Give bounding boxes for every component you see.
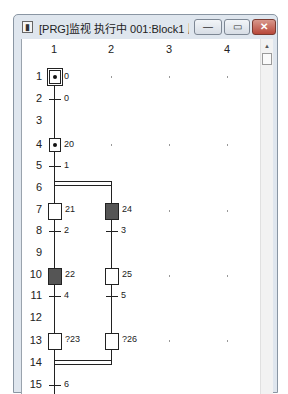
step-26[interactable]: [105, 333, 119, 350]
row-number: 2: [26, 92, 42, 104]
step-22[interactable]: [48, 268, 62, 285]
row-number: 7: [26, 203, 42, 215]
title-bar[interactable]: ▮ [PRG]监视 执行中 001:Block1 顺序... — ▭ ✕: [14, 15, 277, 39]
transition-2[interactable]: [49, 231, 61, 232]
step-20[interactable]: [49, 138, 61, 152]
close-icon: ✕: [253, 20, 275, 34]
parallel-merge-line-top: [54, 360, 112, 361]
transition-label: 4: [64, 290, 69, 300]
sfc-diagram-area[interactable]: 1 2 3 4 1 2 3 4 5 6 7 8 9 10 11 12 13 14…: [21, 39, 272, 394]
window-title: [PRG]监视 执行中 001:Block1 顺序...: [39, 20, 189, 36]
transition-label: 1: [64, 160, 69, 170]
row-number: 13: [26, 334, 42, 346]
row-number: 9: [26, 246, 42, 258]
maximize-icon: ▭: [225, 20, 249, 34]
parallel-branch-line-top: [54, 181, 112, 182]
step-25[interactable]: [105, 268, 119, 285]
step-23[interactable]: [48, 333, 62, 350]
row-number: 3: [26, 114, 42, 126]
row-number: 4: [26, 138, 42, 150]
step-label: ?23: [65, 334, 80, 344]
transition-1[interactable]: [49, 166, 61, 167]
step-label: 0: [64, 71, 69, 81]
transition-label: 3: [121, 225, 126, 235]
row-number: 14: [26, 356, 42, 368]
row-number: 8: [26, 224, 42, 236]
row-number: 5: [26, 159, 42, 171]
grid-dot: [227, 210, 228, 212]
minimize-icon: —: [195, 20, 221, 34]
step-label: 22: [65, 269, 75, 279]
scroll-up-arrow-icon[interactable]: ▲: [261, 41, 273, 51]
grid-dot: [227, 340, 228, 342]
row-number: 12: [26, 311, 42, 323]
vertical-scrollbar[interactable]: ▲: [260, 39, 273, 394]
scroll-thumb[interactable]: [262, 53, 272, 65]
step-label: 25: [122, 269, 132, 279]
parallel-branch-line-bottom: [54, 185, 112, 186]
column-header-2: 2: [104, 43, 118, 55]
transition-label: 2: [64, 225, 69, 235]
row-number: 1: [26, 70, 42, 82]
grid-dot: [111, 76, 112, 78]
maximize-button[interactable]: ▭: [224, 19, 250, 35]
column-header-3: 3: [162, 43, 176, 55]
transition-6[interactable]: [49, 385, 61, 386]
row-number: 11: [26, 289, 42, 301]
minimize-button[interactable]: —: [194, 19, 222, 35]
step-21[interactable]: [48, 203, 62, 220]
transition-label: 0: [64, 93, 69, 103]
grid-dot: [227, 144, 228, 146]
step-label: 21: [65, 204, 75, 214]
step-24[interactable]: [105, 203, 119, 220]
document-icon[interactable]: ▮: [22, 21, 33, 33]
transition-label: 5: [121, 290, 126, 300]
transition-4[interactable]: [49, 296, 61, 297]
column-header-1: 1: [47, 43, 61, 55]
row-number: 15: [26, 378, 42, 390]
initial-step-0[interactable]: [49, 70, 61, 84]
sfc-monitor-window: ▮ [PRG]监视 执行中 001:Block1 顺序... — ▭ ✕ 1 2…: [13, 14, 278, 393]
step-label: 24: [122, 204, 132, 214]
grid-dot: [169, 210, 170, 212]
active-token-icon: [53, 143, 57, 147]
grid-dot: [227, 275, 228, 277]
step-label: ?26: [122, 334, 137, 344]
transition-3[interactable]: [106, 231, 118, 232]
grid-dot: [169, 275, 170, 277]
transition-label: 6: [64, 379, 69, 389]
column-header-4: 4: [220, 43, 234, 55]
step-label: 20: [64, 139, 74, 149]
transition-0[interactable]: [49, 99, 61, 100]
grid-dot: [169, 76, 170, 78]
row-number: 6: [26, 181, 42, 193]
transition-5[interactable]: [106, 296, 118, 297]
grid-dot: [111, 144, 112, 146]
grid-dot: [169, 340, 170, 342]
grid-dot: [169, 144, 170, 146]
close-button[interactable]: ✕: [252, 19, 276, 35]
parallel-merge-line-bottom: [54, 364, 112, 365]
grid-dot: [227, 76, 228, 78]
row-number: 10: [26, 268, 42, 280]
active-token-icon: [53, 75, 57, 79]
